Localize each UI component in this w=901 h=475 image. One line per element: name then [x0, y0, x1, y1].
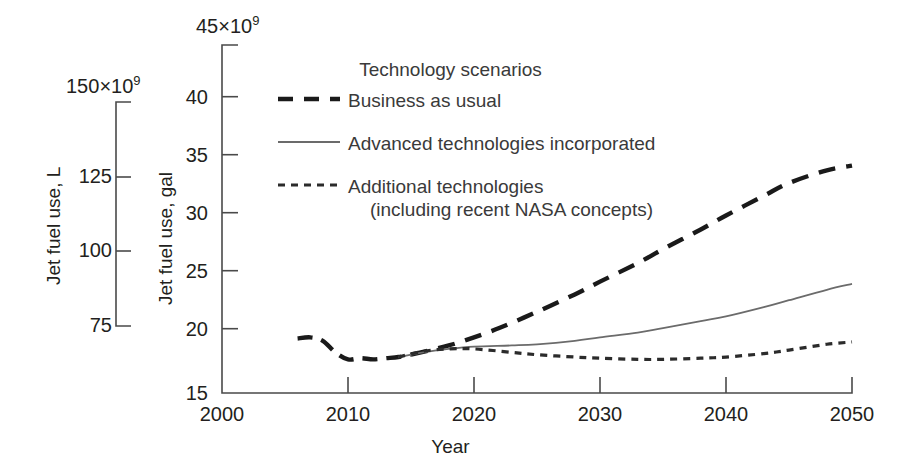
chart-figure: 150×109 125 100 75 Jet fuel use, L 45×10… [0, 0, 901, 475]
secondary-axis-spine [116, 102, 131, 326]
chart-canvas [0, 0, 901, 475]
series-advanced-technologies [398, 284, 852, 357]
series-additional-technologies [398, 342, 852, 360]
x-axis-ticks [348, 377, 726, 393]
series-business-as-usual [411, 166, 852, 355]
series-historical [298, 337, 411, 359]
